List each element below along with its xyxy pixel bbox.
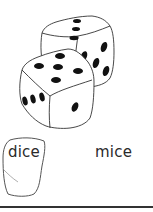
answer-underline [0, 206, 153, 208]
word-choice-dice[interactable]: dice [8, 143, 40, 161]
word-choice-mice[interactable]: mice [95, 143, 132, 161]
front-die [20, 49, 94, 128]
dice-icon [0, 0, 153, 140]
